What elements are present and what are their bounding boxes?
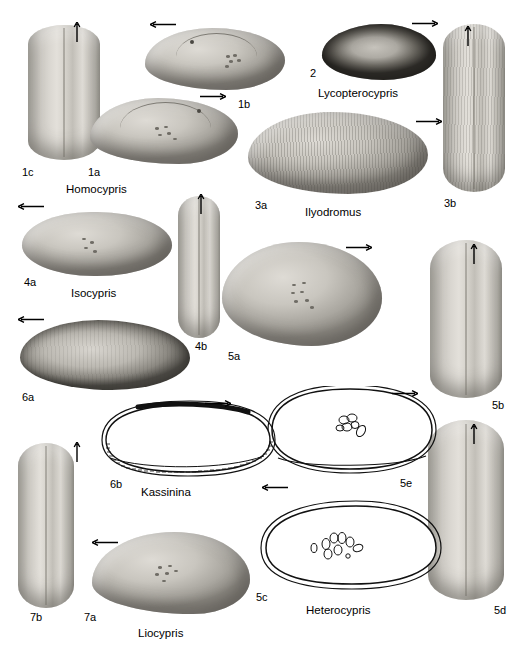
arrow-up-icon bbox=[470, 424, 478, 444]
arrow-up-icon bbox=[464, 26, 472, 46]
specimen-2 bbox=[322, 24, 436, 80]
muscle-scar bbox=[90, 241, 94, 244]
figure-label-5d: 5d bbox=[494, 605, 506, 616]
figure-label-5c: 5c bbox=[256, 592, 268, 603]
figure-label-5e: 5e bbox=[400, 478, 412, 489]
muscle-scar bbox=[233, 54, 237, 57]
arrow-right-icon bbox=[200, 92, 226, 101]
arrow-left-icon bbox=[18, 202, 44, 211]
arrow-left-icon bbox=[92, 538, 118, 547]
arrow-up-icon bbox=[470, 244, 478, 264]
muscle-scar bbox=[165, 572, 169, 575]
muscle-scar bbox=[237, 59, 241, 62]
specimen-7b bbox=[18, 443, 74, 608]
muscle-scar bbox=[291, 292, 295, 295]
arrow-up-icon bbox=[73, 22, 81, 42]
muscle-scar bbox=[155, 573, 159, 576]
figure-label-4b: 4b bbox=[195, 341, 207, 352]
figure-label-7b: 7b bbox=[30, 612, 42, 623]
muscle-scar bbox=[292, 284, 296, 287]
arrow-right-icon bbox=[205, 399, 231, 408]
muscle-scar bbox=[300, 291, 304, 294]
specimen-4b bbox=[178, 196, 220, 338]
arrow-right-icon bbox=[412, 19, 438, 28]
specimen-6a bbox=[20, 320, 190, 390]
specimen-3a bbox=[248, 112, 428, 194]
muscle-scar bbox=[226, 55, 230, 58]
figure-label-6a: 6a bbox=[22, 392, 34, 403]
outline-drawing-5c bbox=[258, 498, 444, 590]
figure-label-1b: 1b bbox=[238, 99, 250, 110]
muscle-scar bbox=[162, 580, 166, 583]
genus-label-ilyodromus: Ilyodromus bbox=[305, 207, 361, 219]
figure-label-3a: 3a bbox=[255, 200, 267, 211]
arrow-up-icon bbox=[73, 442, 81, 462]
muscle-scar bbox=[225, 65, 229, 68]
genus-label-lycopterocypris: Lycopterocypris bbox=[318, 88, 398, 100]
muscle-scar bbox=[155, 127, 159, 130]
genus-label-kassinina: Kassinina bbox=[141, 487, 191, 499]
arrow-left-icon bbox=[262, 483, 288, 492]
muscle-scar bbox=[305, 299, 309, 302]
muscle-scar bbox=[82, 238, 86, 241]
figure-label-7a: 7a bbox=[84, 612, 96, 623]
muscle-scar bbox=[302, 282, 306, 285]
muscle-scar bbox=[168, 565, 172, 568]
arrow-right-icon bbox=[346, 243, 372, 252]
specimen-4a bbox=[22, 212, 172, 276]
hinge-line-1b bbox=[176, 33, 257, 80]
figure-label-4a: 4a bbox=[24, 277, 36, 288]
muscle-scar bbox=[167, 132, 171, 135]
muscle-scar bbox=[174, 570, 178, 573]
figure-label-3b: 3b bbox=[444, 198, 456, 209]
genus-label-liocypris: Liocypris bbox=[138, 628, 183, 640]
muscle-scar bbox=[93, 250, 97, 253]
figure-label-1a: 1a bbox=[88, 167, 100, 178]
genus-label-homocypris: Homocypris bbox=[66, 184, 127, 196]
muscle-scar bbox=[229, 60, 233, 63]
arrow-left-icon bbox=[150, 20, 176, 29]
arrow-right-icon bbox=[416, 117, 442, 126]
figure-plate: 1c 1a 1b 2 3a 3b 4a 4b 5a 5b 5c 5d 5e 6a… bbox=[0, 0, 521, 654]
figure-label-2: 2 bbox=[310, 68, 316, 79]
arrow-right-icon bbox=[392, 389, 418, 398]
specimen-3b bbox=[443, 24, 505, 192]
genus-label-isocypris: Isocypris bbox=[71, 288, 116, 300]
muscle-scar bbox=[294, 300, 298, 303]
muscle-scar bbox=[310, 306, 314, 309]
specimen-1a bbox=[90, 98, 238, 164]
muscle-scar bbox=[158, 566, 162, 569]
specimen-5b bbox=[430, 240, 502, 398]
specimen-6b bbox=[98, 400, 278, 478]
eye-spot-1a bbox=[197, 109, 201, 113]
specimen-1c bbox=[28, 25, 100, 160]
muscle-scar bbox=[173, 138, 177, 141]
arrow-left-icon bbox=[18, 315, 44, 324]
arrow-up-icon bbox=[197, 194, 205, 214]
genus-label-heterocypris: Heterocypris bbox=[306, 605, 371, 617]
figure-label-5a: 5a bbox=[228, 351, 240, 362]
specimen-5e bbox=[262, 386, 438, 474]
muscle-scar bbox=[84, 247, 88, 250]
specimen-5c bbox=[258, 498, 444, 590]
outline-drawing-6b bbox=[98, 400, 278, 478]
specimen-1b bbox=[145, 28, 285, 90]
outline-drawing-5e bbox=[262, 386, 438, 474]
figure-label-5b: 5b bbox=[492, 400, 504, 411]
figure-label-6b: 6b bbox=[110, 479, 122, 490]
figure-label-1c: 1c bbox=[22, 167, 34, 178]
specimen-5a bbox=[222, 242, 382, 346]
